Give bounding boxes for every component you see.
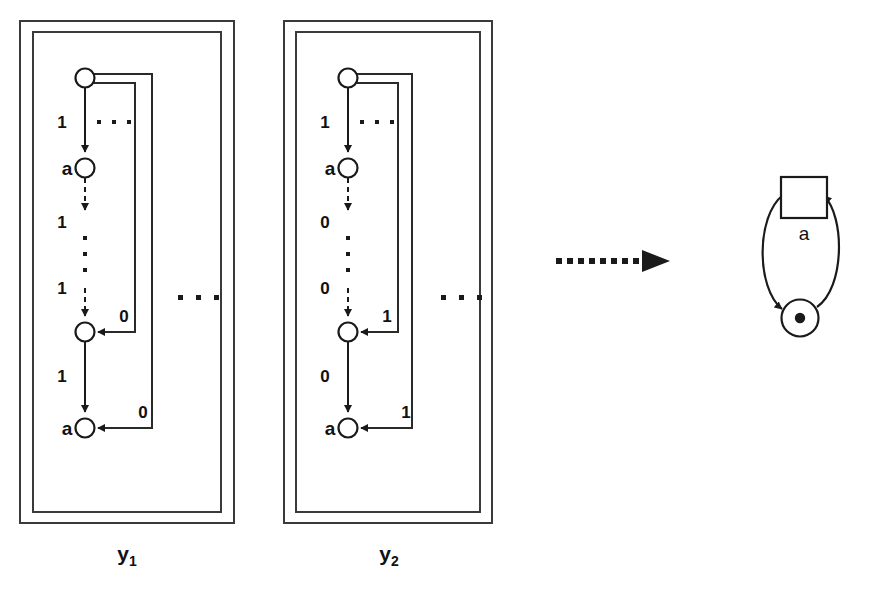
y1-ellipsis-beside-top-edge (97, 120, 131, 124)
y2-loop-label-inner: 1 (382, 307, 391, 326)
transformation-arrow-head (642, 250, 670, 272)
y2-structure-label-base: y (379, 542, 391, 565)
y2-node-label-lower-a: a (325, 418, 336, 439)
transition-label-a: a (799, 223, 810, 244)
structure-y1: a a 1 1 1 1 0 0 (20, 21, 234, 569)
y1-ellipsis-right-of-structure (178, 295, 219, 300)
y2-edge-label-second: 0 (320, 213, 329, 232)
y1-loop-label-inner: 0 (119, 307, 128, 326)
transformation-arrow (556, 250, 670, 272)
y2-ellipsis-right-of-structure (441, 295, 482, 300)
figure-root: a a 1 1 1 1 0 0 (0, 0, 875, 589)
y2-edge-label-fourth: 0 (320, 367, 329, 386)
y2-edge-label-top: 1 (320, 113, 329, 132)
y2-structure-label-subscript: 2 (391, 553, 399, 569)
y1-node-accepting-state-lower (76, 419, 95, 438)
y2-inner-box (296, 32, 480, 512)
y2-node-initial-state (339, 69, 358, 88)
y2-node-label-upper-a: a (325, 158, 336, 179)
y1-structure-label-subscript: 1 (129, 553, 137, 569)
result-petri-net: a (763, 177, 839, 337)
y1-node-label-upper-a: a (62, 158, 73, 179)
place-token (795, 313, 805, 323)
y1-structure-label-base: y (117, 542, 129, 565)
y2-node-accepting-state-upper (339, 159, 358, 178)
y2-ellipsis-beside-top-edge (360, 120, 394, 124)
structure-y2: a a 1 0 0 0 1 1 y2 (284, 21, 492, 569)
y1-ellipsis-vertical (83, 236, 87, 272)
diagram-canvas: a a 1 1 1 1 0 0 (0, 0, 875, 589)
y2-feedback-arc-outer (356, 74, 413, 428)
transition-square (781, 177, 827, 218)
y1-node-accepting-state-upper (76, 159, 95, 178)
y1-loop-label-outer: 0 (138, 403, 147, 422)
y1-edge-label-top: 1 (57, 113, 66, 132)
y1-edge-label-fourth: 1 (57, 367, 66, 386)
y1-outer-box (20, 21, 234, 523)
y2-ellipsis-vertical (346, 236, 350, 272)
y1-edge-label-second: 1 (57, 213, 66, 232)
y1-feedback-arc-outer (93, 74, 153, 428)
y2-structure-label: y2 (379, 542, 399, 569)
y1-edge-label-third: 1 (57, 279, 66, 298)
y2-outer-box (284, 21, 492, 523)
y2-loop-label-outer: 1 (401, 403, 410, 422)
y1-node-initial-state (76, 69, 95, 88)
y2-node-intermediate-state (339, 323, 358, 342)
y2-edge-label-third: 0 (320, 279, 329, 298)
y1-node-intermediate-state (76, 323, 95, 342)
y2-node-accepting-state-lower (339, 419, 358, 438)
y1-inner-box (33, 32, 221, 512)
y1-node-label-lower-a: a (62, 418, 73, 439)
y1-structure-label: y1 (117, 542, 137, 569)
